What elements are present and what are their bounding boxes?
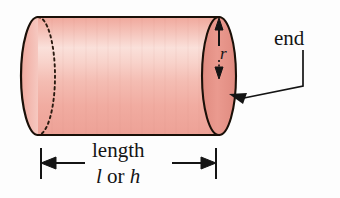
end-label: end (274, 28, 304, 49)
length-symbol-conjunction: or (102, 164, 130, 188)
length-symbols-label: l or h (96, 166, 140, 187)
figure-canvas: end r length l or h (0, 0, 340, 198)
length-symbol-h: h (130, 164, 141, 188)
end-leader-line (244, 50, 303, 98)
length-label: length (92, 140, 145, 161)
radius-label: r (220, 45, 227, 62)
